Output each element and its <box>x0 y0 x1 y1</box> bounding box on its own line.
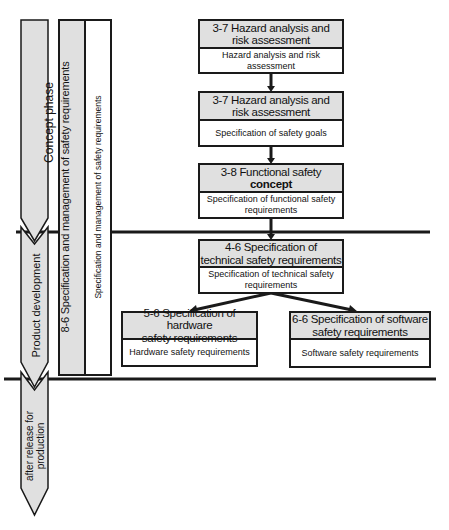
box-header: 6-6 Specification of software safety req… <box>291 313 429 340</box>
box-body: Hazard analysis and risk assessment <box>200 49 342 72</box>
box-header: 3-7 Hazard analysis and risk assessment <box>200 21 342 49</box>
after-release-label: after release for production <box>20 391 50 501</box>
box-body: Specification of safety goals <box>200 121 342 145</box>
box-header: 4-6 Specification of technical safety re… <box>200 241 342 268</box>
connector-line <box>271 293 352 310</box>
software-safety-requirements-box: 6-6 Specification of software safety req… <box>289 311 431 368</box>
box-body: Specification of technical safety requir… <box>200 268 342 292</box>
side-column-subtitle: Specification and management of safety r… <box>85 37 111 357</box>
box-header: 3-7 Hazard analysis and risk assessment <box>200 93 342 121</box>
technical-safety-requirements-box: 4-6 Specification of technical safety re… <box>198 239 344 294</box>
product-development-label: Product development <box>22 236 49 376</box>
safety-goals-box: 3-7 Hazard analysis and risk assessment … <box>198 91 344 147</box>
side-column-title: 8-6 Specification and management of safe… <box>52 27 78 367</box>
hardware-safety-requirements-box: 5-6 Specification of hardware safety req… <box>121 311 258 367</box>
functional-safety-concept-box: 3-8 Functional safety concept Specificat… <box>198 163 344 219</box>
box-header-line: 3-8 Functional safety <box>221 166 321 179</box>
box-body: Software safety requirements <box>291 340 429 366</box>
box-header-line-bold: concept <box>250 178 292 191</box>
box-header: 5-6 Specification of hardware safety req… <box>123 313 256 340</box>
hazard-analysis-box: 3-7 Hazard analysis and risk assessment … <box>198 19 344 74</box>
box-body: Specification of functional safety requi… <box>200 193 342 217</box>
box-header: 3-8 Functional safety concept <box>200 165 342 193</box>
